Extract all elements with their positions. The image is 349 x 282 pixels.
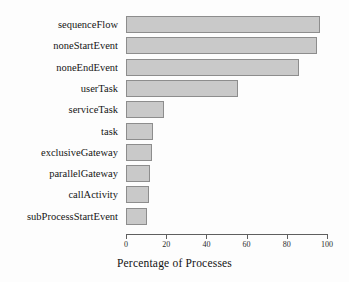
y-axis-category-labels: sequenceFlownoneStartEventnoneEndEventus… <box>0 10 122 225</box>
bar-row <box>126 16 327 33</box>
bar <box>126 165 150 182</box>
bar-row <box>126 208 327 225</box>
bar-row <box>126 144 327 161</box>
bar <box>126 123 153 140</box>
x-axis-tick-label: 40 <box>191 240 221 249</box>
x-axis-tick-label: 60 <box>232 240 262 249</box>
x-axis-title: Percentage of Processes <box>0 257 349 269</box>
y-axis-label: noneEndEvent <box>0 59 118 76</box>
x-axis-tick <box>206 234 207 239</box>
bar <box>126 59 299 76</box>
bar <box>126 101 164 118</box>
y-axis-label: callActivity <box>0 186 118 203</box>
bar-row <box>126 123 327 140</box>
y-axis-label: noneStartEvent <box>0 37 118 54</box>
x-axis-tick <box>126 234 127 239</box>
x-axis-tick-label: 0 <box>111 240 141 249</box>
y-axis-label: parallelGateway <box>0 165 118 182</box>
y-axis-label: subProcessStartEvent <box>0 208 118 225</box>
bar <box>126 144 152 161</box>
bar-row <box>126 186 327 203</box>
x-axis-line <box>126 234 327 235</box>
bar-row <box>126 165 327 182</box>
bar <box>126 80 238 97</box>
x-axis-tick <box>327 234 328 239</box>
bar-row <box>126 59 327 76</box>
bar <box>126 37 317 54</box>
bar-row <box>126 37 327 54</box>
y-axis-label: serviceTask <box>0 101 118 118</box>
x-axis-tick-label: 100 <box>312 240 342 249</box>
x-axis-tick-label: 80 <box>272 240 302 249</box>
bar <box>126 208 147 225</box>
bar-row <box>126 101 327 118</box>
x-axis-tick <box>287 234 288 239</box>
y-axis-label: userTask <box>0 80 118 97</box>
bar-chart: sequenceFlownoneStartEventnoneEndEventus… <box>0 0 349 282</box>
y-axis-label: sequenceFlow <box>0 16 118 33</box>
bar <box>126 16 320 33</box>
x-axis-tick-label: 20 <box>151 240 181 249</box>
x-axis-tick <box>166 234 167 239</box>
bar <box>126 186 149 203</box>
x-axis-tick <box>247 234 248 239</box>
plot-area <box>126 10 327 225</box>
bar-row <box>126 80 327 97</box>
y-axis-label: exclusiveGateway <box>0 144 118 161</box>
y-axis-label: task <box>0 123 118 140</box>
